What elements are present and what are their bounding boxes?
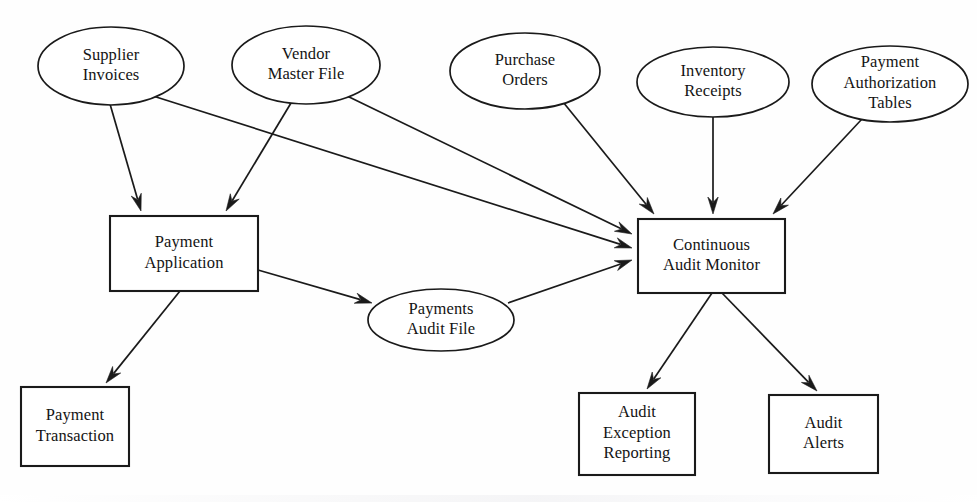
node-audit-exception-reporting[interactable]: AuditExceptionReporting	[579, 393, 695, 475]
node-label-line: Orders	[502, 70, 548, 89]
node-label-line: Transaction	[36, 426, 114, 445]
edge-continuous-audit-monitor-to-audit-alerts	[722, 293, 817, 391]
node-label-line: Payments	[409, 299, 474, 318]
node-vendor-master-file[interactable]: VendorMaster File	[232, 26, 380, 104]
edge-vendor-master-file-to-continuous-audit-monitor	[345, 95, 632, 234]
node-label-line: Authorization	[844, 73, 937, 92]
edge-continuous-audit-monitor-to-audit-exception-reporting	[647, 293, 712, 389]
node-label-line: Audit	[618, 402, 656, 421]
edge-line	[258, 270, 360, 300]
node-label-line: Reporting	[604, 443, 671, 462]
node-label-line: Invoices	[83, 65, 140, 84]
edge-supplier-invoices-to-payment-application	[110, 104, 141, 211]
edge-line	[114, 291, 180, 374]
edge-line	[781, 119, 862, 205]
edge-line	[722, 293, 809, 382]
edge-vendor-master-file-to-payment-application	[226, 103, 291, 211]
nodes-layer: SupplierInvoicesVendorMaster FilePurchas…	[21, 26, 968, 475]
node-label-line: Payment	[46, 405, 105, 424]
edge-line	[654, 293, 712, 379]
node-payment-transaction[interactable]: PaymentTransaction	[21, 387, 129, 466]
edge-line	[563, 102, 646, 205]
node-label-line: Inventory	[680, 61, 746, 80]
node-label-line: Receipts	[684, 81, 742, 100]
node-payment-application[interactable]: PaymentApplication	[110, 216, 258, 291]
edge-payment-application-to-payment-transaction	[106, 291, 180, 383]
node-label-line: Purchase	[495, 50, 555, 69]
diagram-canvas: SupplierInvoicesVendorMaster FilePurchas…	[0, 0, 977, 502]
node-label-line: Application	[145, 253, 224, 272]
node-purchase-orders[interactable]: PurchaseOrders	[450, 33, 600, 109]
edge-arrowhead	[226, 194, 239, 211]
node-label-line: Alerts	[803, 433, 844, 452]
edge-arrowhead	[647, 372, 661, 389]
edge-purchase-orders-to-continuous-audit-monitor	[563, 102, 654, 214]
node-label-line: Continuous	[673, 235, 750, 254]
diagram-svg: SupplierInvoicesVendorMaster FilePurchas…	[0, 0, 977, 502]
node-payments-audit-file[interactable]: PaymentsAudit File	[368, 289, 514, 351]
edge-line	[110, 104, 138, 199]
node-label-line: Audit Monitor	[663, 255, 760, 274]
edge-payment-authorization-tables-to-continuous-audit-monitor	[773, 119, 862, 214]
edge-line	[508, 264, 621, 303]
node-label-line: Tables	[868, 93, 911, 112]
node-inventory-receipts[interactable]: InventoryReceipts	[637, 47, 789, 117]
node-label-line: Payment	[155, 232, 214, 251]
edge-inventory-receipts-to-continuous-audit-monitor	[708, 117, 718, 214]
node-label-line: Payment	[861, 52, 920, 71]
edge-arrowhead	[614, 222, 632, 234]
node-label-line: Exception	[603, 423, 671, 442]
node-audit-alerts[interactable]: AuditAlerts	[769, 395, 878, 473]
edge-arrowhead	[106, 366, 121, 383]
node-label-line: Master File	[268, 64, 345, 83]
node-label-line: Supplier	[83, 45, 140, 64]
edge-payments-audit-file-to-continuous-audit-monitor	[508, 260, 632, 303]
node-continuous-audit-monitor[interactable]: ContinuousAudit Monitor	[638, 219, 785, 293]
edge-line	[232, 103, 291, 201]
node-payment-authorization-tables[interactable]: PaymentAuthorizationTables	[812, 46, 968, 122]
edge-line	[345, 95, 621, 229]
edge-payment-application-to-payments-audit-file	[258, 270, 372, 303]
node-label-line: Vendor	[282, 44, 331, 63]
edge-arrowhead	[639, 198, 654, 214]
node-label-line: Audit File	[407, 319, 475, 338]
node-label-line: Audit	[804, 413, 842, 432]
node-supplier-invoices[interactable]: SupplierInvoices	[38, 27, 184, 105]
